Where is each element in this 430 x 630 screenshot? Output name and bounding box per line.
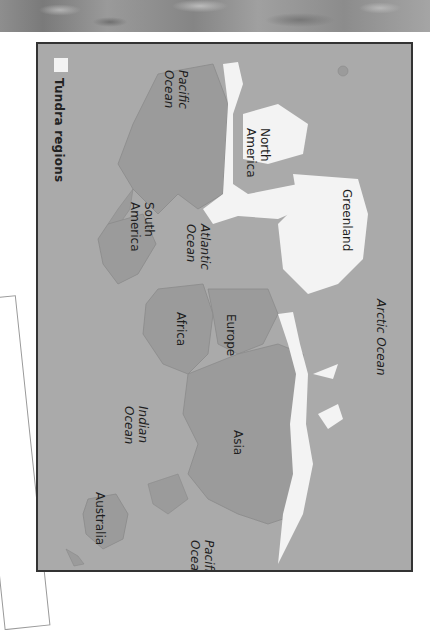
label-australia: Australia — [93, 492, 107, 545]
label-indian-ocean: Indian Ocean — [122, 406, 150, 444]
tundra-arctic-islands — [318, 404, 343, 429]
label-south-america: South America — [128, 202, 156, 252]
label-asia: Asia — [231, 430, 245, 455]
land-new-zealand — [66, 549, 84, 566]
label-africa: Africa — [174, 312, 188, 346]
island-bermuda-ish — [338, 66, 348, 76]
legend-swatch-tundra — [54, 58, 68, 72]
land-europe — [208, 289, 278, 354]
label-pacific-ocean-east: Pacific Ocean — [162, 70, 190, 109]
photo-strip — [0, 0, 430, 32]
label-north-america: North America — [244, 128, 272, 178]
world-tundra-map: Tundra regions Pacific Ocean North Ameri… — [36, 42, 413, 572]
label-greenland: Greenland — [340, 189, 354, 251]
legend-label: Tundra regions — [52, 78, 66, 182]
label-europe: Europe — [224, 314, 238, 356]
label-pacific-ocean-west: Pacific Ocean — [188, 540, 216, 572]
label-atlantic-ocean: Atlantic Ocean — [184, 224, 212, 270]
tundra-arctic-islands-2 — [313, 364, 338, 379]
land-southeast-asia — [148, 474, 188, 514]
label-arctic-ocean: Arctic Ocean — [374, 299, 388, 376]
